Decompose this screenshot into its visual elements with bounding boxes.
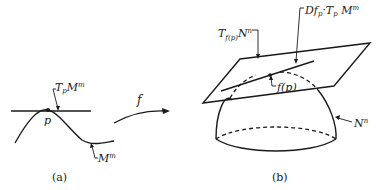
tangent-arrowhead-icon <box>56 106 60 111</box>
caption-b: (b) <box>272 171 288 184</box>
hemisphere-base-back <box>216 127 336 139</box>
map-label-f: f <box>136 93 144 107</box>
map-arrowhead-icon <box>162 108 170 114</box>
tangent-plane-label: Tf(p)Nn <box>218 27 253 42</box>
point-label-p: p <box>44 114 51 127</box>
image-leader <box>296 8 304 61</box>
panel-b: Tf(p)Nn Dfp·Tp Mm f(p) Nn (b) <box>203 4 370 184</box>
caption-a: (a) <box>52 171 67 184</box>
manifold-leader-b <box>338 118 352 122</box>
hemisphere-right-edge <box>318 90 336 139</box>
manifold-arrowhead-b-icon <box>335 115 340 120</box>
tangent-space-label-a: TpMm <box>55 81 85 95</box>
point-p <box>46 108 50 112</box>
image-arrowhead-icon <box>294 59 298 64</box>
manifold-label-b: Nn <box>353 117 369 130</box>
hemisphere-base-front <box>216 139 336 151</box>
point-label-fp: f(p) <box>276 81 297 94</box>
panel-a: TpMm p Mm f (a) <box>11 81 170 184</box>
diagram-canvas: TpMm p Mm f (a) Tf(p)Nn Dfp·Tp Mm <box>0 0 378 190</box>
image-subspace-label: Dfp·Tp Mm <box>304 4 359 18</box>
manifold-label-a: Mm <box>97 152 116 165</box>
map-arrow-f <box>114 111 166 123</box>
plane-leader <box>252 30 258 56</box>
manifold-curve-m <box>15 110 114 144</box>
tangent-plane <box>203 43 370 103</box>
